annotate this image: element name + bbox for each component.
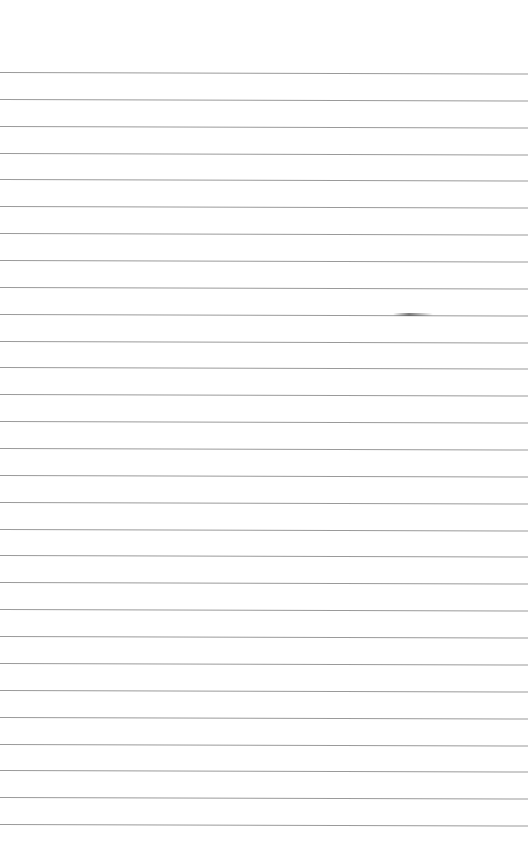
ruled-line [0,367,528,370]
ruled-line [0,179,528,182]
ruled-line [0,341,528,344]
ruled-line [0,502,528,505]
ruled-line [0,690,528,693]
ruled-line [0,636,528,639]
ruled-line [0,421,528,424]
ruled-line [0,475,528,478]
ruled-line [0,72,528,75]
pencil-smudge [393,313,433,316]
ruled-line [0,717,528,720]
ruled-line [0,287,528,290]
ruled-line [0,448,528,451]
ruled-line [0,555,528,558]
ruled-line [0,99,528,102]
ruled-line [0,609,528,612]
ruled-line [0,260,528,263]
ruled-line [0,582,528,585]
ruled-line [0,824,528,827]
ruled-line [0,529,528,532]
ruled-line [0,394,528,397]
ruled-line [0,233,528,236]
ruled-line [0,206,528,209]
ruled-line [0,744,528,747]
ruled-line [0,153,528,156]
ruled-line [0,663,528,666]
ruled-line [0,770,528,773]
ruled-line [0,797,528,800]
ruled-line [0,126,528,129]
ruled-line [0,314,528,317]
